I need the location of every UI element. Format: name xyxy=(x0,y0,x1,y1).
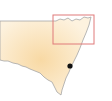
state-outline xyxy=(0,17,91,95)
map-svg xyxy=(0,0,112,101)
location-marker xyxy=(67,63,72,68)
locator-map xyxy=(0,0,112,101)
